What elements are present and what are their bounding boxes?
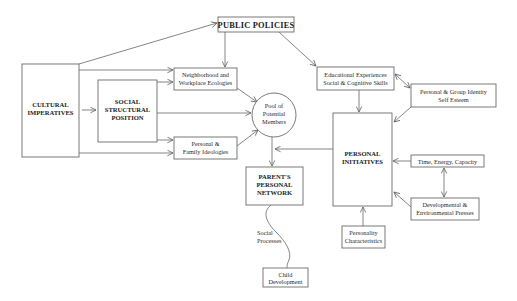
node-educational-experiences[interactable]: Educational Experiences Social & Cogniti… (317, 67, 394, 90)
edge-policies-to-educational (279, 32, 316, 66)
node-label: PERSONAL (257, 181, 294, 188)
node-label: Family Ideologies (183, 148, 229, 155)
node-label: NETWORK (257, 189, 293, 196)
node-label: Members (262, 118, 286, 125)
node-label: Time, Energy, Capacity (418, 158, 478, 165)
node-label: PUBLIC POLICIES (218, 21, 295, 30)
node-label: POSITION (111, 114, 143, 121)
edge-educational-identity-bidirectional (395, 74, 410, 88)
node-label: INITIATIVES (342, 158, 383, 165)
node-label: Personal & (191, 140, 219, 147)
node-label: Social & Cognitive Skills (323, 79, 388, 86)
node-label: PARENT'S (258, 173, 290, 180)
node-label: Personality (349, 229, 378, 236)
node-label: SOCIAL (115, 98, 141, 105)
edge-label-social-processes: Social Processes (257, 229, 282, 244)
node-label: Child (279, 271, 294, 278)
edge-identity-to-initiatives (394, 107, 411, 122)
node-label: STRUCTURAL (105, 106, 151, 113)
node-label: Pool of (265, 102, 284, 109)
node-time-energy-capacity[interactable]: Time, Energy, Capacity (411, 155, 484, 167)
node-label: Self Esteem (438, 96, 468, 103)
node-cultural-imperatives[interactable]: CULTURAL IMPERATIVES (22, 64, 79, 157)
edge-label: Processes (257, 237, 282, 244)
node-label: Environmental Presses (416, 209, 474, 216)
node-label: Workplace Ecologies (179, 79, 233, 86)
edge-developmental-to-initiatives (394, 192, 411, 207)
node-social-structural-position[interactable]: SOCIAL STRUCTURAL POSITION (98, 80, 157, 142)
node-label: Developmental & (423, 201, 468, 208)
node-public-policies[interactable]: PUBLIC POLICIES (218, 17, 295, 32)
node-label: PERSONAL (345, 150, 382, 157)
edge-neighborhood-to-pool (237, 88, 257, 102)
node-personal-initiatives[interactable]: PERSONAL INITIATIVES (333, 113, 392, 206)
node-label: Personal & Group Identity (420, 88, 488, 95)
node-label: CULTURAL (32, 101, 69, 108)
node-personality-characteristics[interactable]: Personality Characteristics (342, 226, 385, 248)
node-personal-group-identity[interactable]: Personal & Group Identity Self Esteem (411, 84, 496, 107)
edge-cultural-to-policies (79, 23, 217, 64)
edge-family-ideologies-to-pool (237, 130, 258, 146)
node-label: Characteristics (345, 237, 383, 244)
diagram-canvas: PUBLIC POLICIES CULTURAL IMPERATIVES SOC… (0, 0, 517, 301)
node-parents-personal-network[interactable]: PARENT'S PERSONAL NETWORK (246, 167, 303, 205)
node-label: Potential (263, 110, 286, 117)
node-label: Development (269, 278, 303, 285)
node-pool-potential-members[interactable]: Pool of Potential Members (252, 93, 296, 137)
node-label: Neighborhood and (182, 71, 230, 78)
node-developmental-presses[interactable]: Developmental & Environmental Presses (411, 198, 479, 220)
node-label: Educational Experiences (324, 71, 387, 78)
node-child-development[interactable]: Child Development (263, 268, 308, 287)
node-label: IMPERATIVES (27, 109, 73, 116)
edge-label: Social (257, 229, 273, 236)
node-neighborhood-workplace[interactable]: Neighborhood and Workplace Ecologies (174, 68, 237, 90)
node-personal-family-ideologies[interactable]: Personal & Family Ideologies (174, 137, 237, 159)
